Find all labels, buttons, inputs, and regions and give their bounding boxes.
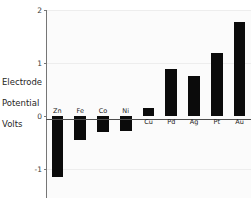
y-tick-mark-2 [44, 10, 47, 11]
bar-cu[interactable] [143, 108, 155, 116]
category-label-ag: Ag [190, 118, 199, 126]
gridline--1 [46, 169, 251, 170]
y-tick-label-1: 1 [32, 59, 42, 68]
bar-zn[interactable] [52, 116, 64, 177]
y-tick-label--1: -1 [32, 164, 42, 173]
y-tick-mark--1 [44, 169, 47, 170]
y-axis-title-line-2: Potential [2, 98, 44, 109]
category-label-cu: Cu [144, 118, 153, 126]
bar-pt[interactable] [211, 53, 223, 116]
y-tick-label-2: 2 [32, 6, 42, 15]
category-label-zn: Zn [53, 107, 62, 115]
category-label-co: Co [99, 107, 108, 115]
category-label-ni: Ni [122, 107, 129, 115]
y-axis-title: Electrode Potential Volts [2, 66, 44, 140]
category-label-au: Au [235, 118, 244, 126]
chart-figure: Electrode Potential Volts 210-1 ZnFeCoNi… [0, 0, 251, 204]
y-axis-title-line-1: Electrode [2, 77, 44, 88]
y-tick-label-0: 0 [32, 111, 42, 120]
y-tick-mark-1 [44, 63, 47, 64]
gridline-2 [46, 10, 251, 11]
bar-pd[interactable] [165, 69, 177, 116]
bar-au[interactable] [234, 22, 246, 116]
y-tick-mark-0 [44, 116, 47, 117]
category-label-pt: Pt [214, 118, 220, 126]
plot-area [46, 10, 251, 198]
category-label-pd: Pd [167, 118, 175, 126]
category-label-fe: Fe [76, 107, 83, 115]
bar-ag[interactable] [188, 76, 200, 116]
